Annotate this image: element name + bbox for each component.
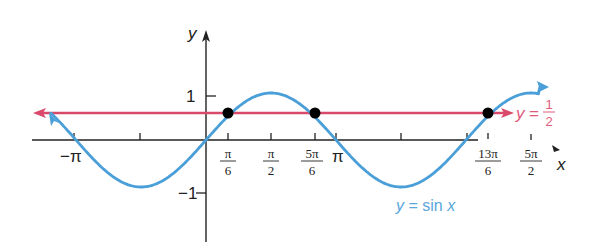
svg-text:y: y (515, 104, 526, 123)
svg-text:1: 1 (545, 97, 552, 112)
intersection-point-13pi-6 (483, 108, 494, 119)
x-tick-label-13pi-6: 13π 6 (475, 146, 501, 178)
half-line-label: y = 1 2 (515, 97, 555, 129)
x-tick-label-pi: π (332, 147, 344, 166)
svg-text:6: 6 (225, 163, 232, 178)
x-tick-label-5pi-6: 5π 6 (301, 146, 323, 178)
svg-text:5π: 5π (524, 146, 538, 161)
y-tick-label-neg1: −1 (178, 184, 197, 203)
y-tick-label-1: 1 (186, 87, 195, 106)
svg-text:6: 6 (485, 163, 492, 178)
y-axis-label: y (187, 24, 198, 43)
svg-text:13π: 13π (478, 146, 498, 161)
x-ticks (74, 133, 531, 140)
x-axis-arrow-icon (552, 145, 560, 152)
sine-graph: x y 1 −1 −π π 6 π 2 5π 6 π (0, 0, 595, 251)
x-tick-label-neg-pi: −π (60, 147, 82, 166)
x-tick-label-pi-6: π 6 (220, 146, 236, 178)
intersection-point-5pi-6 (310, 108, 321, 119)
svg-text:5π: 5π (305, 146, 319, 161)
x-tick-label-pi-2: π 2 (263, 146, 279, 178)
svg-text:2: 2 (528, 163, 535, 178)
sine-curve-label: y = sin x (395, 197, 456, 214)
x-tick-label-5pi-2: 5π 2 (520, 146, 542, 178)
svg-text:=: = (529, 104, 539, 123)
svg-text:π: π (268, 146, 275, 161)
svg-text:2: 2 (268, 163, 275, 178)
svg-text:π: π (225, 146, 232, 161)
svg-text:6: 6 (309, 163, 316, 178)
svg-text:2: 2 (545, 114, 552, 129)
x-axis-label: x (556, 155, 566, 174)
intersection-point-pi-6 (223, 108, 234, 119)
